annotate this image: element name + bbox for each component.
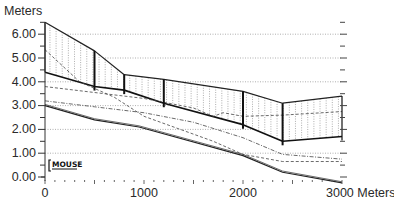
y-tick-label-5: 5.00 xyxy=(12,51,36,65)
y-tick-label-1: 1.00 xyxy=(12,146,36,160)
longitudinal-profile-chart: Meters 6.00 5.00 4.00 3.00 2.00 1.00 0.0… xyxy=(0,0,394,208)
y-tick-label-4: 4.00 xyxy=(12,75,36,89)
x-tick-label-3000: 3000 Meters xyxy=(326,186,394,200)
x-tick-label-1000: 1000 xyxy=(130,186,158,200)
y-tick-label-0: 0.00 xyxy=(12,170,36,184)
y-tick-label-3: 3.00 xyxy=(12,98,36,112)
x-tick-label-0: 0 xyxy=(42,186,49,200)
y-tick-label-6: 6.00 xyxy=(12,27,36,41)
y-tick-label-2: 2.00 xyxy=(12,122,36,136)
mouse-logo-text: MOUSE xyxy=(52,160,82,169)
x-tick-label-2000: 2000 xyxy=(229,186,257,200)
mouse-logo: MOUSE xyxy=(49,160,82,171)
y-axis-title: Meters xyxy=(4,4,42,18)
